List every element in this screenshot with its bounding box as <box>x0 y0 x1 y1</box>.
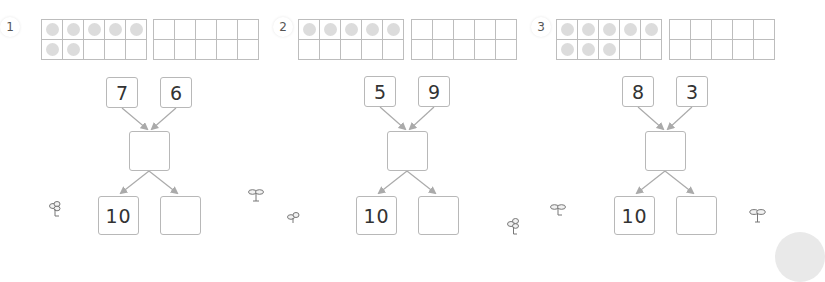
ten-frame-cell <box>691 40 712 60</box>
ten-frame-cell <box>754 40 775 60</box>
ten-frame-cell <box>578 20 599 40</box>
ones-answer-box-3[interactable] <box>676 196 717 235</box>
counter-dot-icon <box>345 23 358 36</box>
sum-answer-input-3[interactable] <box>646 131 685 171</box>
ten-frame-cell <box>454 40 475 60</box>
counter-dot-icon <box>582 23 595 36</box>
ten-frame-cell <box>641 20 662 40</box>
ten-frame-cell <box>238 40 259 60</box>
counter-dot-icon <box>303 23 316 36</box>
counter-dot-icon <box>645 23 658 36</box>
counter-dot-icon <box>624 23 637 36</box>
sum-answer-box-2[interactable] <box>387 131 428 171</box>
addend-b-box-2: 9 <box>418 76 450 107</box>
ten-frame-cell <box>641 40 662 60</box>
addend-b-box-1: 6 <box>160 77 192 108</box>
counter-dot-icon <box>109 23 122 36</box>
ten-frame-cell <box>383 40 404 60</box>
ten-frame-cell <box>670 40 691 60</box>
ten-frame-cell <box>175 20 196 40</box>
counter-dot-icon <box>603 23 616 36</box>
addend-a-box-1: 7 <box>106 77 138 108</box>
ten-frame-cell <box>496 20 517 40</box>
ten-frame-cell <box>63 40 84 60</box>
addend-a-box-2: 5 <box>364 76 396 107</box>
ten-frame-cell <box>362 20 383 40</box>
ten-frame-cell <box>733 20 754 40</box>
ten-frame-cell <box>557 40 578 60</box>
ten-frame-cell <box>84 40 105 60</box>
ten-frame-cell <box>383 20 404 40</box>
sprout-icon <box>48 200 62 218</box>
ten-frame-cell <box>299 40 320 60</box>
tens-box-3: 10 <box>614 196 655 235</box>
page-corner-circle <box>775 232 825 282</box>
counter-dot-icon <box>387 23 400 36</box>
ten-frame-3a <box>556 19 662 60</box>
ten-frame-cell <box>84 20 105 40</box>
ten-frame-cell <box>620 20 641 40</box>
counter-dot-icon <box>46 23 59 36</box>
ten-frame-3b <box>669 19 775 60</box>
ones-answer-input-1[interactable] <box>161 196 200 235</box>
ten-frame-cell <box>217 20 238 40</box>
ten-frame-cell <box>733 40 754 60</box>
ones-answer-box-1[interactable] <box>160 196 201 235</box>
ten-frame-cell <box>42 40 63 60</box>
sum-answer-input-2[interactable] <box>388 131 427 171</box>
counter-dot-icon <box>324 23 337 36</box>
sprout-icon <box>507 217 520 236</box>
ten-frame-cell <box>557 20 578 40</box>
ten-frame-cell <box>433 40 454 60</box>
ten-frame-cell <box>412 20 433 40</box>
sum-answer-input-1[interactable] <box>130 131 169 171</box>
ten-frame-cell <box>238 20 259 40</box>
tens-box-2: 10 <box>356 196 397 235</box>
sum-answer-box-1[interactable] <box>129 131 170 171</box>
counter-dot-icon <box>366 23 379 36</box>
ten-frame-2a <box>298 19 404 60</box>
ten-frame-1a <box>41 19 147 60</box>
ten-frame-cell <box>433 20 454 40</box>
ten-frame-cell <box>341 40 362 60</box>
ten-frame-cell <box>299 20 320 40</box>
ten-frame-cell <box>175 40 196 60</box>
sprout-icon <box>248 188 264 204</box>
problem-number-2: 2 <box>273 17 293 37</box>
ten-frame-cell <box>320 40 341 60</box>
ten-frame-cell <box>412 40 433 60</box>
ten-frame-cell <box>126 40 147 60</box>
counter-dot-icon <box>88 23 101 36</box>
ten-frame-cell <box>196 40 217 60</box>
counter-dot-icon <box>67 43 80 56</box>
counter-dot-icon <box>46 43 59 56</box>
ones-answer-box-2[interactable] <box>418 196 459 235</box>
ten-frame-cell <box>578 40 599 60</box>
ten-frame-cell <box>362 40 383 60</box>
ten-frame-2b <box>411 19 517 60</box>
counter-dot-icon <box>561 43 574 56</box>
sum-answer-box-3[interactable] <box>645 131 686 171</box>
ones-answer-input-3[interactable] <box>677 196 716 235</box>
counter-dot-icon <box>603 43 616 56</box>
ten-frame-cell <box>126 20 147 40</box>
ten-frame-cell <box>154 40 175 60</box>
ten-frame-cell <box>105 40 126 60</box>
ten-frame-cell <box>475 40 496 60</box>
ten-frame-cell <box>217 40 238 60</box>
sprout-icon <box>287 210 300 225</box>
ten-frame-cell <box>196 20 217 40</box>
addend-a-box-3: 8 <box>622 76 654 107</box>
ten-frame-cell <box>599 20 620 40</box>
ten-frame-cell <box>154 20 175 40</box>
ten-frame-cell <box>712 20 733 40</box>
ten-frame-cell <box>320 20 341 40</box>
ten-frame-cell <box>599 40 620 60</box>
ten-frame-cell <box>341 20 362 40</box>
ten-frame-cell <box>454 20 475 40</box>
ones-answer-input-2[interactable] <box>419 196 458 235</box>
ten-frame-cell <box>754 20 775 40</box>
ten-frame-cell <box>712 40 733 60</box>
ten-frame-1b <box>153 19 259 60</box>
tens-box-1: 10 <box>98 196 139 235</box>
